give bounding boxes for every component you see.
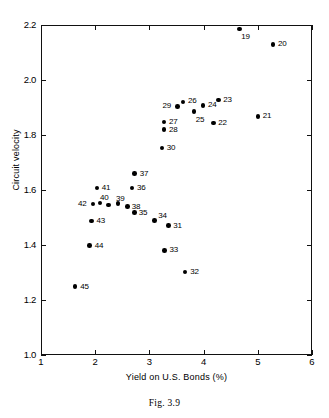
scatter-point [175, 104, 180, 109]
scatter-point-label: 42 [78, 200, 87, 208]
scatter-point-label: 26 [188, 97, 197, 105]
scatter-point-label: 32 [190, 268, 199, 276]
scatter-point-label: 41 [102, 184, 111, 192]
scatter-point-label: 19 [241, 33, 250, 41]
scatter-point-label: 23 [223, 96, 232, 104]
scatter-point-label: 38 [132, 203, 141, 211]
scatter-point-label: 28 [169, 126, 178, 134]
x-axis-tick-label: 2 [85, 356, 105, 367]
scatter-point [152, 218, 157, 223]
scatter-point [211, 121, 216, 126]
scatter-point [73, 284, 78, 289]
scatter-point-label: 39 [116, 195, 125, 203]
scatter-point [192, 109, 197, 114]
scatter-point-label: 36 [137, 184, 146, 192]
scatter-point [132, 171, 137, 176]
scatter-point [162, 120, 167, 125]
scatter-point [91, 202, 96, 207]
scatter-point [106, 203, 111, 208]
scatter-point [87, 243, 92, 248]
scatter-point-label: 45 [80, 283, 89, 291]
scatter-points-layer: 1920212223242526272829303132333435363738… [41, 25, 312, 355]
scatter-point-label: 31 [173, 222, 182, 230]
scatter-point-label: 25 [196, 116, 205, 124]
scatter-point [271, 42, 276, 47]
scatter-point [125, 204, 130, 209]
scatter-point [130, 186, 135, 191]
scatter-point-label: 24 [208, 101, 217, 109]
scatter-point-label: 21 [263, 112, 272, 120]
scatter-point-label: 34 [158, 212, 167, 220]
scatter-point-label: 43 [96, 217, 105, 225]
x-axis-tick-label: 3 [139, 356, 159, 367]
scatter-point [162, 248, 167, 253]
y-axis-tick-label: 2.0 [10, 75, 36, 85]
scatter-point [95, 186, 100, 191]
x-axis-tick-label: 5 [248, 356, 268, 367]
scatter-point [201, 103, 206, 108]
scatter-point [237, 27, 242, 32]
scatter-point [132, 210, 137, 215]
x-axis-tick-label: 4 [194, 356, 214, 367]
scatter-point-label: 44 [95, 242, 104, 250]
scatter-point [256, 114, 261, 119]
y-axis-tick-label: 1.4 [10, 240, 36, 250]
y-axis-tick-label: 2.2 [10, 20, 36, 30]
x-axis-tick-label: 6 [302, 356, 322, 367]
figure-container: 1.01.21.41.61.82.02.2123456 192021222324… [0, 0, 329, 418]
scatter-point [181, 100, 186, 105]
y-axis-title: Circuit velocity [11, 100, 21, 220]
y-axis-tick-label: 1.2 [10, 295, 36, 305]
scatter-point [160, 146, 165, 151]
scatter-point-label: 40 [100, 194, 109, 202]
x-axis-tick-label: 1 [31, 356, 51, 367]
figure-caption: Fig. 3.9 [0, 398, 329, 408]
x-axis-tick [312, 350, 313, 355]
scatter-point-label: 33 [170, 246, 179, 254]
x-axis-tick-top [312, 25, 313, 30]
scatter-point [89, 219, 94, 224]
x-axis-title: Yield on U.S. Bonds (%) [41, 372, 312, 382]
scatter-point [162, 127, 167, 132]
scatter-point-label: 30 [167, 144, 176, 152]
scatter-point-label: 29 [163, 102, 172, 110]
scatter-point [166, 223, 171, 228]
scatter-point-label: 22 [218, 119, 227, 127]
scatter-point-label: 37 [140, 170, 149, 178]
scatter-point [183, 270, 188, 275]
scatter-point-label: 20 [278, 40, 287, 48]
